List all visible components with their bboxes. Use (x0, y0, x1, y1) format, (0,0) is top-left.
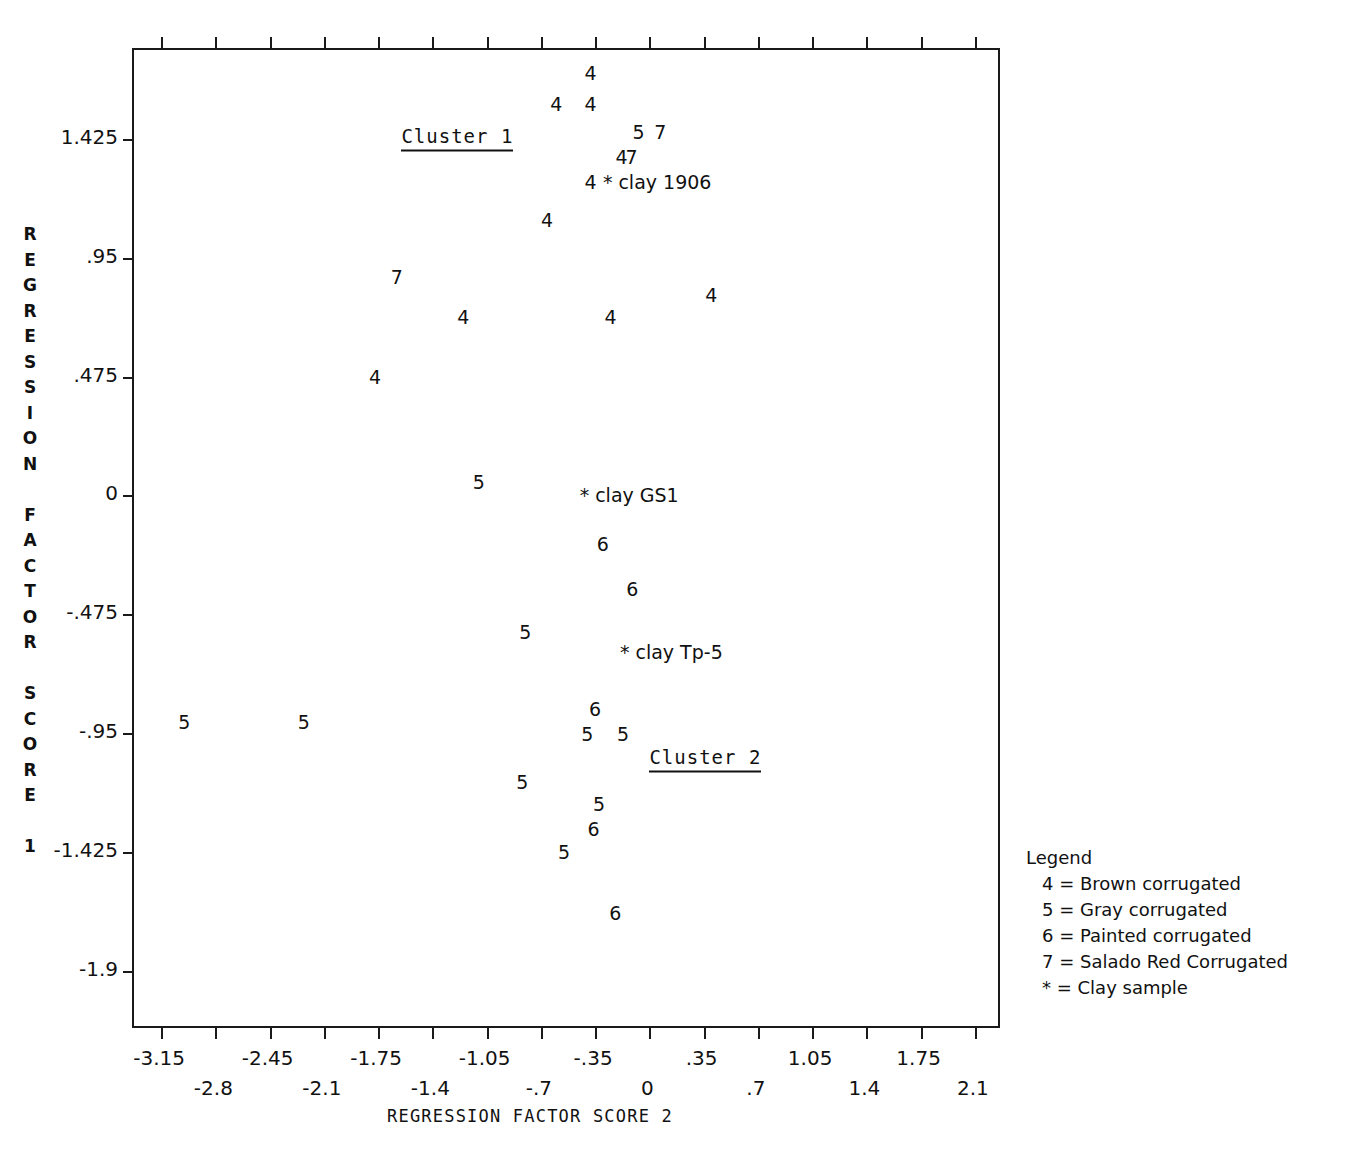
y-axis-tick-label: 0 (105, 481, 118, 505)
x-axis-tick-label: -.7 (526, 1076, 552, 1100)
legend-item: 6 = Painted corrugated (1026, 923, 1288, 949)
x-axis-tick-label: 1.75 (896, 1046, 941, 1070)
axis-tick (866, 1026, 868, 1039)
axis-tick (123, 971, 134, 973)
y-axis-title-letter: R (18, 758, 42, 784)
x-axis-tick-label: -1.05 (459, 1046, 511, 1070)
legend-item: 5 = Gray corrugated (1026, 897, 1288, 923)
data-point-4: 4 (584, 95, 596, 114)
data-point-5: 5 (632, 122, 644, 141)
data-point-6: 6 (588, 820, 600, 839)
axis-tick (123, 495, 134, 497)
y-axis-tick-label: .95 (86, 244, 118, 268)
legend-item: 7 = Salado Red Corrugated (1026, 949, 1288, 975)
data-point-5: 5 (473, 472, 485, 491)
x-axis-tick-label: -2.1 (302, 1076, 341, 1100)
y-axis-title-letter: S (18, 375, 42, 401)
axis-tick (215, 37, 217, 50)
legend-title: Legend (1026, 845, 1288, 871)
y-axis-title-letter: E (18, 248, 42, 274)
x-axis-tick-label: 0 (641, 1076, 654, 1100)
y-axis-title-letter: S (18, 681, 42, 707)
axis-tick (649, 1026, 651, 1039)
axis-tick (595, 37, 597, 50)
data-point-5: 5 (581, 725, 593, 744)
y-axis-tick-label: -.95 (79, 719, 118, 743)
data-point-5: 5 (178, 712, 190, 731)
axis-tick (812, 37, 814, 50)
legend-rows: 4 = Brown corrugated5 = Gray corrugated6… (1026, 871, 1288, 1001)
data-point-4: 4 (541, 211, 553, 230)
axis-tick (921, 1026, 923, 1039)
axis-tick (595, 1026, 597, 1039)
y-axis-tick-label: -1.9 (79, 957, 118, 981)
y-axis-title-letter: C (18, 707, 42, 733)
y-axis-title-letter: G (18, 273, 42, 299)
axis-tick (123, 377, 134, 379)
legend-item: 4 = Brown corrugated (1026, 871, 1288, 897)
scatter-plot-figure: REGRESSION.FACTOR.SCORE.1 1.425.95.4750-… (0, 0, 1348, 1161)
axis-tick (378, 37, 380, 50)
clay-sample-annotation: * clay 1906 (603, 172, 712, 191)
axis-tick (378, 1026, 380, 1039)
data-point-5: 5 (617, 725, 629, 744)
data-point-5: 5 (519, 622, 531, 641)
y-axis-title-letter: R (18, 222, 42, 248)
axis-tick (649, 37, 651, 50)
y-axis-title-letter: C (18, 554, 42, 580)
data-point-6: 6 (626, 580, 638, 599)
y-axis-title-letter: E (18, 783, 42, 809)
axis-tick (324, 37, 326, 50)
clay-sample-annotation: * clay Tp-5 (620, 642, 723, 661)
y-axis-title-letter: T (18, 579, 42, 605)
axis-tick (123, 852, 134, 854)
y-axis-title-letter: I (18, 401, 42, 427)
x-axis-tick-label: .7 (746, 1076, 765, 1100)
axis-tick (975, 37, 977, 50)
y-axis-title-letter: 1 (18, 834, 42, 860)
data-point-4: 4 (369, 367, 381, 386)
axis-tick (123, 139, 134, 141)
axis-tick (161, 37, 163, 50)
axis-tick (270, 1026, 272, 1039)
axis-tick (161, 1026, 163, 1039)
axis-tick (812, 1026, 814, 1039)
x-axis-tick-label: -.35 (574, 1046, 613, 1070)
x-axis-tick-label: -3.15 (133, 1046, 185, 1070)
axis-tick (432, 37, 434, 50)
y-axis-tick-label: -.475 (66, 600, 118, 624)
axis-tick (487, 1026, 489, 1039)
cluster-label: Cluster 1 (401, 124, 513, 151)
axis-tick (975, 1026, 977, 1039)
x-axis-tick-label: -2.8 (194, 1076, 233, 1100)
y-axis-title-letter: A (18, 528, 42, 554)
cluster-label: Cluster 2 (649, 746, 761, 773)
axis-tick (123, 614, 134, 616)
legend: Legend 4 = Brown corrugated5 = Gray corr… (1026, 845, 1288, 1001)
axis-tick (432, 1026, 434, 1039)
data-point-4: 4 (550, 95, 562, 114)
data-point-7: 7 (654, 122, 666, 141)
y-axis-title-letter: R (18, 630, 42, 656)
axis-tick (758, 1026, 760, 1039)
axis-tick (541, 1026, 543, 1039)
axis-tick (541, 37, 543, 50)
data-point-4: 4 (457, 307, 469, 326)
y-axis-title-letter: O (18, 605, 42, 631)
axis-tick (921, 37, 923, 50)
axis-tick (324, 1026, 326, 1039)
data-point-6: 6 (597, 535, 609, 554)
axis-tick (704, 1026, 706, 1039)
data-point-5: 5 (593, 795, 605, 814)
data-point-4: 4 (705, 286, 717, 305)
data-point-7: 7 (626, 147, 638, 166)
y-axis-title-letter: S (18, 350, 42, 376)
legend-item: * = Clay sample (1026, 975, 1288, 1001)
x-axis-tick-label: 2.1 (957, 1076, 989, 1100)
plot-area: 4445747447444456655565555656 * clay 1906… (132, 48, 1000, 1028)
axis-tick (866, 37, 868, 50)
data-point-6: 6 (589, 700, 601, 719)
y-axis-tick-label: .475 (73, 363, 118, 387)
y-axis-title-letter: F (18, 503, 42, 529)
axis-tick (270, 37, 272, 50)
